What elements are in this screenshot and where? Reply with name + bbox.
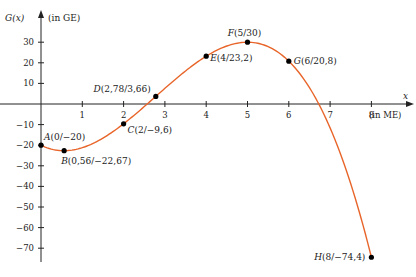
- x-tick-label: 2: [121, 110, 126, 120]
- y-tick-label: −40: [16, 181, 34, 191]
- point-F: [245, 40, 250, 45]
- point-label-F: F(5/30): [227, 28, 261, 38]
- point-C: [121, 121, 126, 126]
- y-tick-label: −50: [16, 202, 34, 212]
- y-tick-label: −10: [16, 120, 34, 130]
- point-E: [204, 54, 209, 59]
- y-tick-label: 30: [23, 37, 34, 47]
- y-tick-label: 10: [23, 78, 34, 88]
- x-tick-label: 3: [162, 110, 167, 120]
- y-tick-label: −70: [16, 243, 34, 253]
- point-label-C: C(2/−9,6): [128, 125, 173, 135]
- point-label-E: E(4/23,2): [209, 53, 252, 63]
- x-axis-unit: (in ME): [369, 110, 401, 120]
- y-axis-arrow-icon: [38, 10, 44, 18]
- point-label-G: G(6/20,8): [294, 56, 337, 66]
- point-B: [62, 148, 67, 153]
- x-tick-label: 6: [286, 110, 291, 120]
- y-tick-label: 20: [23, 58, 34, 68]
- point-D: [153, 94, 158, 99]
- profit-curve: [41, 42, 371, 257]
- x-axis-symbol: x: [403, 91, 408, 101]
- y-axis-symbol: G(x): [5, 13, 25, 23]
- x-axis-arrow-icon: [406, 101, 414, 107]
- point-H: [369, 255, 374, 260]
- point-label-B: B(0,56/−22,67): [60, 156, 131, 166]
- point-label-A: A(0/−20): [43, 132, 85, 142]
- profit-chart: 12345678302010−10−20−30−40−50−60−70 A(0/…: [0, 0, 416, 277]
- point-label-H: H(8/−74,4): [313, 252, 365, 262]
- x-tick-label: 1: [80, 110, 85, 120]
- y-tick-label: −20: [16, 140, 34, 150]
- x-tick-label: 5: [245, 110, 250, 120]
- x-tick-label: 4: [203, 110, 208, 120]
- point-A: [38, 143, 43, 148]
- point-label-D: D(2,78/3,66): [92, 84, 150, 94]
- y-tick-label: −60: [16, 223, 34, 233]
- y-tick-label: −30: [16, 161, 34, 171]
- point-G: [286, 59, 291, 64]
- x-tick-label: 7: [327, 110, 332, 120]
- y-axis-unit: (in GE): [48, 13, 80, 23]
